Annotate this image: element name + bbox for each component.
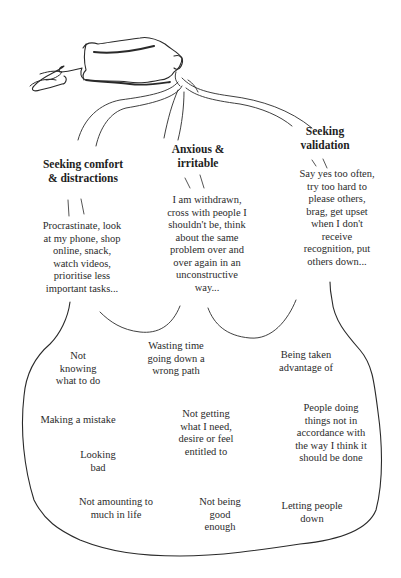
fear-line: good	[186, 509, 254, 522]
bag-knot-icon	[30, 37, 183, 90]
heading-line: & distractions	[18, 171, 148, 185]
fear-line: should be done	[276, 452, 386, 465]
behaviour-line: when I don't	[276, 218, 398, 231]
fear-line: Letting people	[264, 500, 360, 513]
fear-not-getting-needs: Not getting what I need, desire or feel …	[160, 408, 252, 458]
behaviour-line: important tasks...	[12, 283, 152, 296]
fear-line: much in life	[60, 509, 172, 522]
fear-taken-advantage: Being taken advantage of	[262, 349, 350, 374]
fear-line: wrong path	[134, 365, 218, 378]
crease-right	[208, 300, 296, 338]
crease-left	[100, 306, 180, 332]
behaviour-line: shouldn't be, think	[142, 219, 272, 232]
fear-line: advantage of	[262, 362, 350, 375]
fear-line: Looking	[66, 449, 130, 462]
fear-letting-people-down: Letting people down	[264, 500, 360, 525]
fear-not-amounting: Not amounting to much in life	[60, 496, 172, 521]
fear-line: things not in	[276, 415, 386, 428]
behaviour-line: others down...	[276, 256, 398, 269]
fear-line: enough	[186, 521, 254, 534]
fear-line: Not being	[186, 496, 254, 509]
behaviour-line: brag, get upset	[276, 206, 398, 219]
fear-line: entitled to	[160, 446, 252, 459]
behaviour-line: at my phone, shop	[12, 233, 152, 246]
behaviour-line: please others,	[276, 193, 398, 206]
heading-line: Seeking	[280, 124, 370, 138]
branch-behaviours-seeking-comfort: Procrastinate, look at my phone, shop on…	[12, 220, 152, 295]
fear-line: going down a	[134, 353, 218, 366]
behaviour-line: Say yes too often,	[276, 168, 398, 181]
fear-line: what I need,	[160, 421, 252, 434]
fear-line: accordance with	[276, 427, 386, 440]
fear-line: the way I think it	[276, 440, 386, 453]
behaviour-line: watch videos,	[12, 258, 152, 271]
fear-line: what to do	[42, 375, 114, 388]
behaviour-line: cross with people I	[142, 207, 272, 220]
fear-not-knowing: Not knowing what to do	[42, 350, 114, 388]
heading-line: validation	[280, 138, 370, 152]
behaviour-line: about the same	[142, 232, 272, 245]
fear-line: Not	[42, 350, 114, 363]
behaviour-line: unconstructive	[142, 269, 272, 282]
fear-line: knowing	[42, 363, 114, 376]
behaviour-line: problem over and	[142, 244, 272, 257]
behaviour-line: receive	[276, 231, 398, 244]
heading-line: Seeking comfort	[18, 157, 148, 171]
branch-behaviours-seeking-validation: Say yes too often, try too hard to pleas…	[276, 168, 398, 268]
fear-line: Wasting time	[134, 340, 218, 353]
heading-line: irritable	[148, 156, 248, 170]
behaviour-line: way...	[142, 282, 272, 295]
branch-behaviours-anxious-irritable: I am withdrawn, cross with people I shou…	[142, 194, 272, 294]
behaviour-line: over again in an	[142, 257, 272, 270]
fear-looking-bad: Looking bad	[66, 449, 130, 474]
branch-heading-anxious-irritable: Anxious & irritable	[148, 142, 248, 170]
fear-wasting-time: Wasting time going down a wrong path	[134, 340, 218, 378]
fear-line: Making a mistake	[26, 414, 130, 427]
heading-line: Anxious &	[148, 142, 248, 156]
fear-line: Not amounting to	[60, 496, 172, 509]
behaviour-line: I am withdrawn,	[142, 194, 272, 207]
branch-heading-seeking-validation: Seeking validation	[280, 124, 370, 152]
fear-line: Not getting	[160, 408, 252, 421]
behaviour-line: try too hard to	[276, 181, 398, 194]
fear-line: bad	[66, 462, 130, 475]
behaviour-line: recognition, put	[276, 243, 398, 256]
branch-heading-seeking-comfort: Seeking comfort & distractions	[18, 157, 148, 185]
fear-people-doing-things: People doing things not in accordance wi…	[276, 402, 386, 465]
behaviour-line: online, snack,	[12, 245, 152, 258]
fear-not-good-enough: Not being good enough	[186, 496, 254, 534]
fear-line: People doing	[276, 402, 386, 415]
fear-line: desire or feel	[160, 433, 252, 446]
fear-making-mistake: Making a mistake	[26, 414, 130, 427]
fear-line: Being taken	[262, 349, 350, 362]
fear-line: down	[264, 513, 360, 526]
behaviour-line: prioritise less	[12, 270, 152, 283]
behaviour-line: Procrastinate, look	[12, 220, 152, 233]
